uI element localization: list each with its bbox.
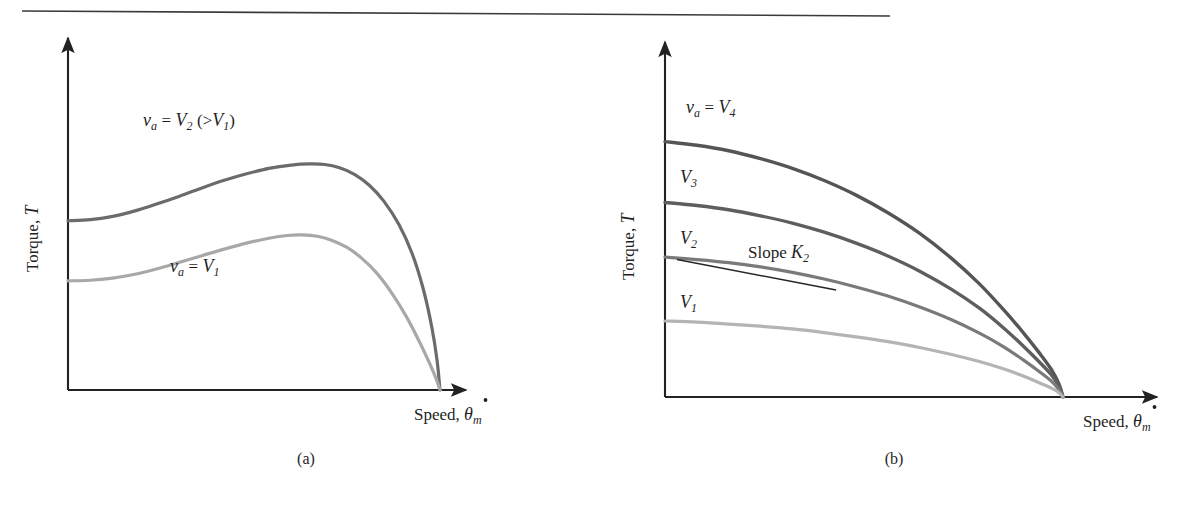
panel-b: Torque, T Speed, θm va = V4 V3 V2 [618, 42, 1157, 468]
panel-b-curve-label-v4: va = V4 [686, 97, 736, 120]
panel-a-curve-v1 [68, 235, 440, 390]
panel-b-x-axis-label-text: Speed, [1083, 412, 1129, 431]
svg-text:Torque, T: Torque, T [22, 204, 42, 272]
svg-text:Torque, T: Torque, T [618, 212, 638, 280]
panel-b-y-axis-label: Torque, T [618, 212, 638, 280]
panel-a-x-axis-label-symbol: θ [464, 404, 473, 424]
panel-b-x-axis-label: Speed, θm [1083, 405, 1156, 434]
panel-b-y-axis-label-text: Torque, [619, 228, 638, 280]
panel-a-y-axis-label-symbol: T [22, 204, 42, 216]
panel-b-curve-label-v3: V3 [680, 167, 697, 190]
panel-b-y-axis-label-symbol: T [618, 212, 638, 224]
theta-dot-icon [484, 398, 488, 402]
panel-b-x-axis-label-subscript: m [1142, 420, 1151, 434]
panel-a-curve-label-v1: va = V1 [170, 256, 220, 279]
panel-a-x-axis-label-text: Speed, [414, 405, 460, 424]
panel-a-caption: (a) [297, 450, 315, 468]
panel-a-y-axis-label-text: Torque, [23, 220, 42, 272]
panel-b-caption: (b) [885, 450, 904, 468]
svg-text:Speed, θm: Speed, θm [1083, 411, 1151, 434]
panel-a-x-axis-label-subscript: m [473, 413, 482, 427]
figure-canvas: Torque, T Speed, θm va = V2 (>V1) va = V… [0, 0, 1185, 509]
svg-text:Speed, θm: Speed, θm [414, 404, 482, 427]
panel-b-curve-label-v1: V1 [680, 292, 697, 315]
panel-a-y-axis-label: Torque, T [22, 204, 42, 272]
slope-k2-annotation-label: Slope K2 [748, 242, 809, 265]
horizontal-rule [22, 11, 890, 16]
panel-a-x-axis-label: Speed, θm [414, 398, 487, 427]
panel-a-curve-label-v2: va = V2 (>V1) [143, 110, 235, 133]
figure-root: Torque, T Speed, θm va = V2 (>V1) va = V… [0, 0, 1185, 509]
panel-b-curve-v1 [665, 321, 1063, 397]
panel-b-x-axis-label-symbol: θ [1133, 411, 1142, 431]
panel-b-curve-label-v2: V2 [680, 228, 697, 251]
theta-dot-icon [1153, 405, 1157, 409]
panel-a: Torque, T Speed, θm va = V2 (>V1) va = V… [22, 38, 487, 468]
